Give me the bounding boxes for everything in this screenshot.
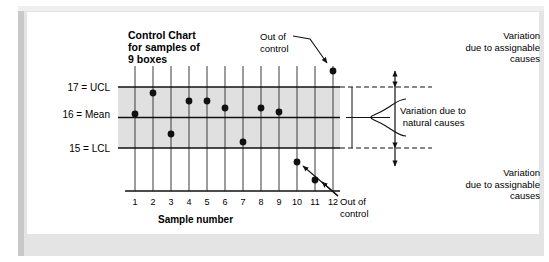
- x-tick-11: 11: [305, 197, 325, 207]
- chart-title-line-3: 9 boxes: [128, 53, 167, 65]
- x-tick-7: 7: [233, 197, 253, 207]
- callout-leader-top: [293, 36, 327, 63]
- x-tick-10: 10: [287, 197, 307, 207]
- x-tick-5: 5: [197, 197, 217, 207]
- data-point-5[interactable]: [204, 98, 211, 105]
- data-point-6[interactable]: [222, 105, 229, 112]
- data-point-4[interactable]: [186, 98, 193, 105]
- assignable-top-line-3: causes: [510, 53, 540, 64]
- assignable-top-line-2: due to assignable: [466, 42, 540, 53]
- data-point-8[interactable]: [258, 105, 265, 112]
- x-axis-title: Sample number: [158, 214, 233, 226]
- x-tick-2: 2: [143, 197, 163, 207]
- chart-title: Control Chartfor samples of9 boxes: [128, 29, 200, 65]
- x-tick-9: 9: [269, 197, 289, 207]
- assignable-bottom-line-3: causes: [510, 190, 540, 201]
- x-tick-6: 6: [215, 197, 235, 207]
- callout-bottom-line-2: control: [340, 208, 369, 219]
- chart-title-line-1: Control Chart: [128, 29, 196, 41]
- data-point-7[interactable]: [240, 139, 247, 146]
- callout-out-of-control-bottom: Out ofcontrol: [340, 196, 369, 219]
- callout-out-of-control-top: Out ofcontrol: [260, 31, 289, 54]
- x-tick-1: 1: [125, 197, 145, 207]
- x-tick-3: 3: [161, 197, 181, 207]
- data-point-9[interactable]: [276, 109, 283, 116]
- mean-axis-label: 16 = Mean: [32, 109, 110, 121]
- assignable-bottom-line-1: Variation: [503, 167, 540, 178]
- annotation-natural-causes: Variation due to natural causes: [400, 105, 540, 128]
- callout-top-line-1: Out of: [260, 31, 286, 42]
- annotation-assignable-causes-top: Variationdue to assignablecauses: [400, 30, 540, 65]
- x-tick-4: 4: [179, 197, 199, 207]
- annotation-assignable-causes-bottom: Variationdue to assignablecauses: [400, 167, 540, 202]
- ucl-axis-label: 17 = UCL: [32, 82, 110, 94]
- data-point-1[interactable]: [132, 111, 139, 118]
- natural-line-2: natural causes: [403, 117, 465, 128]
- control-chart-figure: Control Chartfor samples of9 boxes 17 = …: [0, 0, 549, 262]
- chart-title-line-2: for samples of: [128, 41, 200, 53]
- assignable-top-line-1: Variation: [503, 30, 540, 41]
- callout-top-line-2: control: [260, 43, 289, 54]
- natural-line-1: Variation due to: [400, 105, 466, 116]
- callout-leader-bottom-11: [322, 182, 338, 196]
- data-point-12[interactable]: [330, 68, 337, 75]
- lcl-axis-label: 15 = LCL: [32, 143, 110, 155]
- x-tick-8: 8: [251, 197, 271, 207]
- data-point-10[interactable]: [294, 159, 301, 166]
- data-point-2[interactable]: [150, 90, 157, 97]
- assignable-bottom-line-2: due to assignable: [466, 179, 540, 190]
- callout-bottom-line-1: Out of: [340, 196, 366, 207]
- data-point-3[interactable]: [168, 131, 175, 138]
